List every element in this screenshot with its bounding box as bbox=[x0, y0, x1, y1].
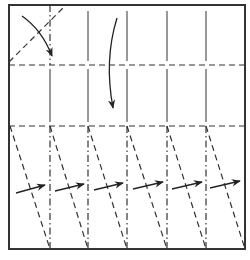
origami-diagram bbox=[0, 0, 250, 260]
crease-pattern-svg bbox=[0, 0, 250, 260]
